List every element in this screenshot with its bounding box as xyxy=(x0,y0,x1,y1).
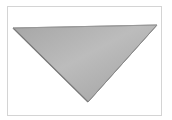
triangle-shape-icon xyxy=(13,25,157,102)
product-image-canvas xyxy=(0,0,172,120)
bandana-image xyxy=(0,0,172,120)
